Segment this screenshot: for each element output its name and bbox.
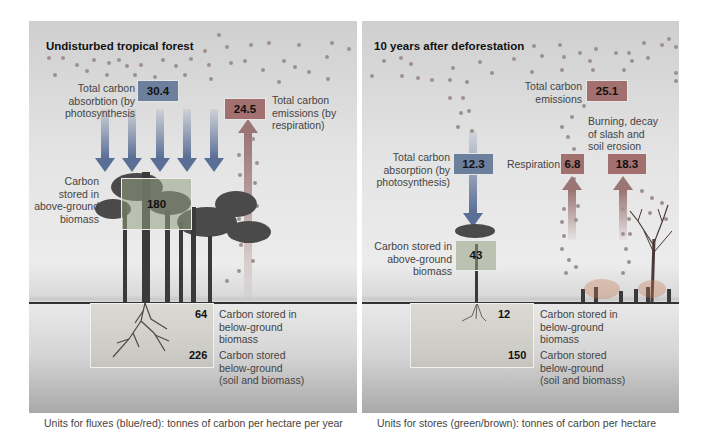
below-ground-biomass-label: Carbon stored in below-ground biomass [540, 308, 670, 346]
below-ground-total-label: Carbon stored below-ground (soil and bio… [219, 349, 349, 387]
below-ground-total-value: 150 [508, 349, 526, 361]
panel-after-deforestation: 10 years after deforestation [362, 21, 679, 413]
caption-stores: Units for stores (green/brown): tonnes o… [377, 417, 656, 429]
below-ground-total-value: 226 [189, 349, 207, 361]
total-emission-value: 25.1 [586, 80, 628, 102]
absorption-value: 12.3 [453, 153, 494, 175]
total-emission-label: Total carbon emissions [494, 80, 582, 105]
caption-fluxes: Units for fluxes (blue/red): tonnes of c… [44, 417, 343, 429]
absorption-label: Total carbon absorption (by photosynthes… [362, 151, 450, 189]
below-ground-biomass-value: 64 [195, 308, 207, 320]
burning-value: 18.3 [607, 153, 647, 175]
below-ground-biomass-value: 12 [498, 308, 510, 320]
below-ground-biomass-label: Carbon stored in below-ground biomass [219, 308, 349, 346]
below-ground-total-label: Carbon stored below-ground (soil and bio… [540, 349, 670, 387]
above-ground-label: Carbon stored in above-ground biomass [362, 240, 452, 278]
fire-smoke [584, 279, 666, 299]
burning-label: Burning, decay of slash and soil erosion [588, 115, 678, 153]
panel-undisturbed-forest: Undisturbed tropical forest [29, 21, 357, 413]
respiration-value: 6.8 [560, 153, 585, 175]
respiration-label: Respiration [492, 158, 560, 171]
above-ground-store-box: 43 [455, 240, 497, 271]
